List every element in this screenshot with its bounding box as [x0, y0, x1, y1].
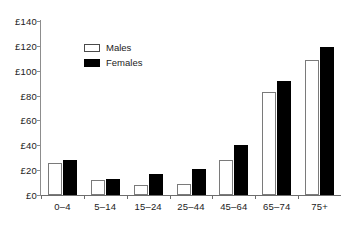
y-axis-tick-mark [37, 21, 41, 22]
y-axis-tick-label: £100 [15, 65, 37, 76]
legend-label-males: Males [106, 41, 131, 54]
x-axis-tick-label: 75+ [311, 201, 328, 212]
legend-label-females: Females [106, 56, 142, 69]
bar-males [219, 160, 233, 195]
y-axis-tick-label: £80 [21, 90, 37, 101]
y-axis-tick-label: £0 [26, 190, 37, 201]
bar-females [63, 160, 77, 195]
y-axis-tick-mark [37, 145, 41, 146]
x-axis-tick-mark [170, 195, 171, 199]
bar-females [106, 179, 120, 195]
x-axis-line [40, 195, 341, 196]
bar-females [234, 145, 248, 195]
y-axis-tick-label: £40 [21, 140, 37, 151]
legend-item-females: Females [84, 56, 142, 69]
x-axis-tick-mark [298, 195, 299, 199]
x-axis-tick-label: 15–24 [134, 201, 161, 212]
bar-group [46, 21, 79, 195]
bar-males [305, 60, 319, 195]
y-axis-tick-mark [37, 170, 41, 171]
bar-group [303, 21, 336, 195]
x-axis-tick-mark [212, 195, 213, 199]
y-axis-tick-mark [37, 46, 41, 47]
x-axis-tick-label: 45–64 [220, 201, 247, 212]
x-axis-tick-mark [127, 195, 128, 199]
bar-females [149, 174, 163, 195]
bar-group [260, 21, 293, 195]
y-axis-tick-mark [37, 96, 41, 97]
bar-males [134, 185, 148, 195]
bar-males [177, 184, 191, 195]
x-axis-tick-mark [84, 195, 85, 199]
y-axis-ticks: £0£20£40£60£80£100£120£140 [0, 0, 37, 234]
bar-chart: £0£20£40£60£80£100£120£140 0–45–1415–242… [0, 0, 350, 234]
legend-item-males: Males [84, 41, 142, 54]
bar-males [262, 92, 276, 195]
x-axis-tick-label: 5–14 [94, 201, 116, 212]
chart-legend: Males Females [84, 41, 142, 71]
x-axis-tick-label: 25–44 [177, 201, 204, 212]
bar-females [320, 47, 334, 195]
bar-females [277, 81, 291, 195]
y-axis-tick-label: £140 [15, 16, 37, 27]
x-axis-tick-mark [41, 195, 42, 199]
y-axis-tick-label: £120 [15, 40, 37, 51]
x-axis-tick-label: 0–4 [54, 201, 70, 212]
bar-males [91, 180, 105, 195]
bar-group [217, 21, 250, 195]
bar-males [48, 163, 62, 195]
bar-females [192, 169, 206, 195]
legend-swatch-males-icon [84, 44, 100, 52]
y-axis-tick-label: £60 [21, 115, 37, 126]
bar-group [175, 21, 208, 195]
x-axis-tick-mark [255, 195, 256, 199]
y-axis-tick-mark [37, 120, 41, 121]
legend-swatch-females-icon [84, 59, 100, 67]
y-axis-tick-label: £20 [21, 165, 37, 176]
y-axis-tick-mark [37, 71, 41, 72]
x-axis-tick-label: 65–74 [263, 201, 290, 212]
